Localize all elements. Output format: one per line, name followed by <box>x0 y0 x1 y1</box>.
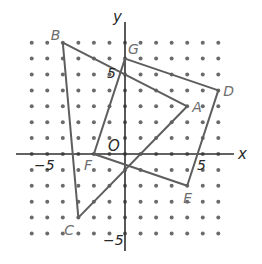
grid-dot <box>92 232 96 236</box>
grid-dot <box>154 168 158 172</box>
grid-dot <box>76 184 80 188</box>
grid-dot <box>139 232 143 236</box>
grid-dot <box>139 73 143 77</box>
grid-dot <box>216 232 220 236</box>
grid-dot <box>107 216 111 220</box>
grid-dot <box>154 41 158 45</box>
grid-dot <box>76 168 80 172</box>
grid-dot <box>30 73 34 77</box>
grid-dot <box>170 168 174 172</box>
grid-dot <box>107 57 111 61</box>
grid-dot <box>107 88 111 92</box>
grid-dot <box>201 200 205 204</box>
grid-dot <box>201 120 205 124</box>
grid-dot <box>61 184 65 188</box>
point-label-f: F <box>84 157 93 173</box>
grid-dot <box>154 73 158 77</box>
grid-dot <box>170 88 174 92</box>
grid-dot <box>170 232 174 236</box>
grid-dot <box>201 232 205 236</box>
grid-dot <box>30 136 34 140</box>
grid-dot <box>92 184 96 188</box>
grid-dot <box>45 104 49 108</box>
grid-dot <box>30 88 34 92</box>
grid-dot <box>92 136 96 140</box>
grid-dot <box>170 104 174 108</box>
grid-dot <box>154 232 158 236</box>
point-label-d: D <box>223 83 234 99</box>
grid-dot <box>170 184 174 188</box>
grid-dot <box>154 57 158 61</box>
grid-dot <box>30 184 34 188</box>
grid-dot <box>92 41 96 45</box>
grid-dot <box>76 57 80 61</box>
grid-dot <box>45 88 49 92</box>
point-label-e: E <box>183 190 192 206</box>
grid-dot <box>61 216 65 220</box>
grid-dot <box>107 200 111 204</box>
grid-dot <box>30 104 34 108</box>
grid-dot <box>92 104 96 108</box>
grid-dot <box>170 41 174 45</box>
grid-dot <box>139 200 143 204</box>
grid-dot <box>45 120 49 124</box>
grid-dot <box>61 168 65 172</box>
grid-dot <box>45 73 49 77</box>
grid-dot <box>45 136 49 140</box>
grid-dot <box>76 104 80 108</box>
grid-dot <box>61 200 65 204</box>
grid-dot <box>154 216 158 220</box>
grid-dot <box>76 120 80 124</box>
grid-dot <box>76 232 80 236</box>
coordinate-plane-diagram: x y O −5 5 5 −5 A B C D E F G <box>0 0 262 264</box>
grid-dot <box>170 136 174 140</box>
grid-dot <box>30 216 34 220</box>
grid-dot <box>76 88 80 92</box>
grid-dot <box>201 41 205 45</box>
x-tick-label-neg5: −5 <box>34 157 55 173</box>
grid-dot <box>170 200 174 204</box>
grid-dot <box>216 41 220 45</box>
grid-dot <box>139 57 143 61</box>
grid-dot <box>170 57 174 61</box>
point-label-c: C <box>64 222 74 238</box>
grid-dot <box>76 73 80 77</box>
grid-dot <box>216 57 220 61</box>
grid-dot <box>61 73 65 77</box>
grid-dot <box>45 41 49 45</box>
grid-dot <box>185 168 189 172</box>
grid-dot <box>92 73 96 77</box>
grid-dot <box>154 120 158 124</box>
y-tick-label-neg5: −5 <box>103 232 124 248</box>
grid-dot <box>30 57 34 61</box>
y-axis-label: y <box>112 8 123 26</box>
grid-dot <box>216 136 220 140</box>
grid-dot <box>185 120 189 124</box>
grid-dot <box>61 104 65 108</box>
grid-dot <box>61 136 65 140</box>
grid-dot <box>76 136 80 140</box>
polygons <box>63 43 219 218</box>
grid-dot <box>45 216 49 220</box>
grid-dot <box>201 184 205 188</box>
grid-dot <box>30 120 34 124</box>
grid-dot <box>45 57 49 61</box>
grid-dot <box>139 184 143 188</box>
x-axis-label: x <box>237 145 247 163</box>
grid-dot <box>92 168 96 172</box>
grid-dot <box>139 216 143 220</box>
point-label-a: A <box>191 99 202 115</box>
point-label-g: G <box>128 41 139 57</box>
grid-dot <box>201 88 205 92</box>
grid-dot <box>61 120 65 124</box>
grid-dot <box>30 232 34 236</box>
grid-dot <box>154 184 158 188</box>
grid-dot <box>216 73 220 77</box>
grid-dot <box>185 232 189 236</box>
grid-dot <box>216 184 220 188</box>
grid-dot <box>30 41 34 45</box>
grid-dot <box>185 73 189 77</box>
grid-dot <box>45 232 49 236</box>
grid-dot <box>92 216 96 220</box>
grid-dot <box>107 41 111 45</box>
